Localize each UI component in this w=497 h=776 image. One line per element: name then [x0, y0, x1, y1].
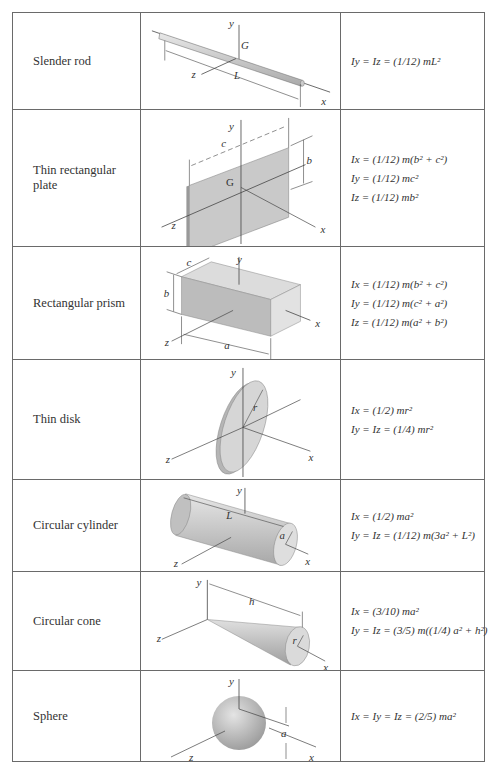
- table-row-sphere: Sphere y a z x Ix = Iy = Iz = (2/5) ma²: [13, 671, 484, 761]
- radius-label: a: [280, 529, 286, 541]
- formulas: Ix = (3/10) ma² Iy = Iz = (3/5) m((1/4) …: [341, 572, 484, 670]
- length-label: L: [233, 69, 240, 81]
- formula-line: Ix = (1/12) m(b² + c²): [351, 150, 484, 169]
- rectangular-prism-diagram: y c b z a x: [141, 247, 341, 359]
- table-row-rectangular-prism: Rectangular prism y c b z a: [13, 247, 484, 360]
- z-axis-label: z: [164, 336, 170, 348]
- y-axis-label: y: [230, 366, 236, 378]
- shape-name: Slender rod: [13, 13, 141, 109]
- thin-plate-icon: y c b G z x: [141, 110, 340, 246]
- formulas: Ix = (1/2) mr² Iy = Iz = (1/4) mr²: [341, 360, 484, 479]
- formulas: Ix = (1/12) m(b² + c²) Iy = (1/12) mc² I…: [341, 110, 484, 246]
- formula-line: Iy = (1/12) mc²: [351, 169, 484, 188]
- formula-line: Ix = Iy = Iz = (2/5) ma²: [351, 707, 484, 726]
- y-axis-label: y: [228, 675, 234, 687]
- height-label: b: [307, 154, 313, 166]
- x-axis-label: x: [319, 223, 325, 235]
- radius-label: r: [253, 401, 258, 413]
- table-row-thin-disk: Thin disk y r z x Ix = (1/2) mr² Iy = Iz…: [13, 360, 484, 480]
- formula-line: Iy = Iz = (1/12) mL²: [351, 52, 484, 71]
- thin-plate-diagram: y c b G z x: [141, 110, 341, 246]
- thin-disk-diagram: y r z x: [141, 360, 341, 479]
- circular-cylinder-diagram: y L a z x: [141, 480, 341, 571]
- length-label: a: [224, 339, 230, 351]
- moments-of-inertia-table: Slender rod y G z L x Iy = Iz = (1/12) m…: [12, 12, 485, 762]
- circular-cone-icon: y h r z x: [141, 572, 340, 670]
- table-row-slender-rod: Slender rod y G z L x Iy = Iz = (1/12) m…: [13, 13, 484, 110]
- z-axis-label: z: [173, 557, 179, 569]
- shape-name: Sphere: [13, 671, 141, 761]
- circular-cylinder-icon: y L a z x: [141, 480, 340, 571]
- formulas: Ix = Iy = Iz = (2/5) ma²: [341, 671, 484, 761]
- formula-line: Iy = Iz = (1/12) m(3a² + L²): [351, 526, 484, 545]
- y-axis-label: y: [236, 484, 242, 496]
- z-axis-label: z: [191, 68, 197, 80]
- x-axis-label: x: [304, 555, 310, 567]
- x-axis-label: x: [322, 661, 328, 670]
- shape-name: Rectangular prism: [13, 247, 141, 359]
- sphere-icon: y a z x: [141, 671, 340, 761]
- formula-line: Ix = (1/2) mr²: [351, 401, 484, 420]
- z-axis-label: z: [188, 751, 194, 761]
- centroid-label: G: [226, 176, 234, 188]
- formulas: Iy = Iz = (1/12) mL²: [341, 13, 484, 109]
- slender-rod-icon: y G z L x: [141, 13, 340, 109]
- z-axis-label: z: [156, 632, 162, 644]
- formulas: Ix = (1/2) ma² Iy = Iz = (1/12) m(3a² + …: [341, 480, 484, 571]
- y-axis-label: y: [228, 17, 234, 29]
- width-label: c: [221, 137, 226, 149]
- formulas: Ix = (1/12) m(b² + c²) Iy = (1/12) m(c² …: [341, 247, 484, 359]
- height-label: h: [249, 595, 254, 607]
- x-axis-label: x: [320, 95, 326, 107]
- table-row-circular-cylinder: Circular cylinder y L a z x Ix = (1/2) m…: [13, 480, 484, 572]
- slender-rod-diagram: y G z L x: [141, 13, 341, 109]
- formula-line: Iy = Iz = (3/5) m((1/4) a² + h²): [351, 621, 484, 640]
- x-axis-label: x: [308, 751, 314, 761]
- shape-name: Circular cone: [13, 572, 141, 670]
- shape-name: Thin rectangular plate: [13, 110, 141, 246]
- formula-line: Ix = (1/12) m(b² + c²): [351, 275, 484, 294]
- formula-line: Ix = (1/2) ma²: [351, 507, 484, 526]
- shape-name: Circular cylinder: [13, 480, 141, 571]
- x-axis-label: x: [314, 317, 320, 329]
- formula-line: Iy = Iz = (1/4) mr²: [351, 420, 484, 439]
- sphere-diagram: y a z x: [141, 671, 341, 761]
- z-axis-label: z: [171, 219, 177, 231]
- formula-line: Iz = (1/12) m(a² + b²): [351, 313, 484, 332]
- circular-cone-diagram: y h r z x: [141, 572, 341, 670]
- centroid-label: G: [241, 39, 249, 51]
- table-row-circular-cone: Circular cone y h r z x Ix = (3/10) ma²: [13, 572, 484, 671]
- shape-name: Thin disk: [13, 360, 141, 479]
- depth-label: c: [186, 256, 191, 268]
- formula-line: Iy = (1/12) m(c² + a²): [351, 294, 484, 313]
- thin-disk-icon: y r z x: [141, 360, 340, 479]
- y-axis-label: y: [195, 576, 201, 588]
- formula-line: Iz = (1/12) mb²: [351, 188, 484, 207]
- y-axis-label: y: [236, 253, 242, 265]
- z-axis-label: z: [165, 453, 171, 465]
- height-label: b: [164, 287, 170, 299]
- length-label: L: [225, 509, 232, 521]
- formula-line: Ix = (3/10) ma²: [351, 602, 484, 621]
- table-row-thin-plate: Thin rectangular plate y c b G z x: [13, 110, 484, 247]
- x-axis-label: x: [307, 451, 313, 463]
- rectangular-prism-icon: y c b z a x: [141, 247, 340, 359]
- radius-label: a: [281, 727, 287, 739]
- y-axis-label: y: [228, 120, 234, 132]
